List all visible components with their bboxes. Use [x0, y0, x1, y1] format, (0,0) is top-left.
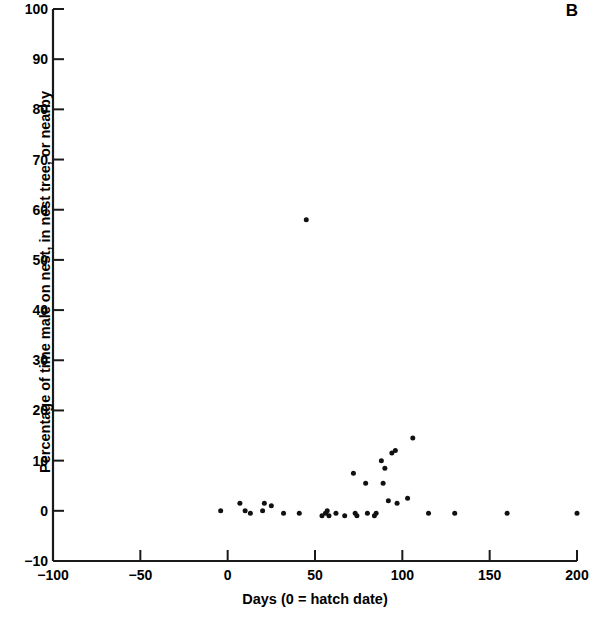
- x-axis-tick-label: 100: [367, 568, 437, 582]
- data-point: [374, 511, 379, 516]
- panel-label: B: [566, 2, 578, 19]
- data-point-group: [218, 217, 579, 518]
- data-point: [393, 448, 398, 453]
- y-axis-tick-label-text: 50: [2, 253, 48, 267]
- y-axis-tick-label-text: 80: [2, 102, 48, 116]
- y-axis-tick-label: 100: [0, 2, 48, 16]
- y-axis-tick-label-text: 70: [2, 153, 48, 167]
- data-point: [333, 511, 338, 516]
- x-axis-tick-label: 200: [542, 568, 594, 582]
- y-axis-tick-label: 30: [0, 353, 48, 367]
- y-axis-tick-label-text: 0: [2, 504, 48, 518]
- x-axis-tick-label: −100: [18, 568, 88, 582]
- y-axis-tick-label-text: −10: [2, 554, 48, 568]
- x-axis-tick-label: 50: [280, 568, 350, 582]
- y-axis-tick-label: 20: [0, 403, 48, 417]
- x-axis-title: Days (0 = hatch date): [53, 591, 577, 607]
- y-axis-tick-label: 70: [0, 153, 48, 167]
- y-axis-tick-label-text: 20: [2, 403, 48, 417]
- data-point: [281, 511, 286, 516]
- data-point: [363, 481, 368, 486]
- y-axis-tick-label: −10: [0, 554, 48, 568]
- x-axis-tick-label: −50: [105, 568, 175, 582]
- data-point: [505, 511, 510, 516]
- y-axis-tick-label: 80: [0, 102, 48, 116]
- data-point: [326, 513, 331, 518]
- y-axis-tick-label: 60: [0, 203, 48, 217]
- data-point: [395, 501, 400, 506]
- y-axis-tick-label-text: 90: [2, 52, 48, 66]
- y-axis-title: Percentage of time male on nest, in nest…: [37, 2, 53, 562]
- scatter-plot-canvas: [0, 0, 594, 617]
- figure-panel-b: B Percentage of time male on nest, in ne…: [0, 0, 594, 617]
- y-axis-tick-label: 0: [0, 504, 48, 518]
- data-point: [260, 508, 265, 513]
- y-axis-tick-label-text: 100: [2, 2, 48, 16]
- y-axis-ticks: [53, 9, 64, 561]
- y-axis-tick-label-text: 10: [2, 454, 48, 468]
- data-point: [410, 436, 415, 441]
- x-axis-ticks: [53, 550, 577, 561]
- x-axis-tick-label: 0: [193, 568, 263, 582]
- data-point: [452, 511, 457, 516]
- x-axis-tick-label: 150: [455, 568, 525, 582]
- y-axis-tick-label-text: 60: [2, 203, 48, 217]
- data-point: [342, 513, 347, 518]
- y-axis-tick-label: 40: [0, 303, 48, 317]
- data-point: [379, 458, 384, 463]
- data-point: [304, 217, 309, 222]
- data-point: [248, 511, 253, 516]
- y-axis-tick-label: 10: [0, 454, 48, 468]
- data-point: [243, 508, 248, 513]
- data-point: [325, 508, 330, 513]
- data-point: [426, 511, 431, 516]
- y-axis-tick-label-text: 30: [2, 353, 48, 367]
- data-point: [218, 508, 223, 513]
- y-axis-tick-label-text: 40: [2, 303, 48, 317]
- y-axis-tick-label: 50: [0, 253, 48, 267]
- data-point: [351, 471, 356, 476]
- data-point: [237, 501, 242, 506]
- data-point: [365, 511, 370, 516]
- data-point: [382, 466, 387, 471]
- axis-lines: [53, 9, 577, 561]
- data-point: [381, 481, 386, 486]
- data-point: [262, 501, 267, 506]
- data-point: [386, 498, 391, 503]
- data-point: [269, 503, 274, 508]
- data-point: [405, 496, 410, 501]
- y-axis-tick-label: 90: [0, 52, 48, 66]
- data-point: [354, 513, 359, 518]
- data-point: [297, 511, 302, 516]
- data-point: [575, 511, 580, 516]
